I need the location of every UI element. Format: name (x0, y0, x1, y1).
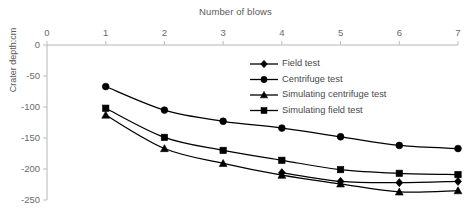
marker-triangle (161, 145, 169, 152)
y-tick-label: -100 (21, 101, 40, 112)
series-simulating-field-test (103, 105, 462, 178)
legend-label: Field test (282, 58, 320, 68)
marker-square (337, 166, 343, 172)
marker-square (396, 170, 402, 176)
marker-circle (220, 118, 227, 125)
marker-circle (396, 142, 403, 149)
marker-diamond (455, 177, 462, 185)
x-axis: 01234567 (44, 27, 460, 45)
chart-legend: Field testCentrifuge testSimulating cent… (250, 58, 387, 115)
y-axis: 0-50-100-150-200-250 (21, 39, 47, 205)
marker-square (261, 108, 267, 114)
marker-square (161, 134, 167, 140)
marker-circle (161, 107, 168, 114)
legend-item-simulating-centrifuge-test[interactable]: Simulating centrifuge test (250, 89, 387, 99)
x-tick-label: 6 (397, 27, 402, 38)
marker-diamond (261, 60, 267, 68)
marker-square (279, 157, 285, 163)
y-tick-label: -250 (21, 194, 40, 205)
marker-circle (278, 125, 285, 132)
legend-label: Simulating field test (282, 105, 363, 115)
marker-circle (102, 83, 109, 90)
marker-circle (455, 145, 462, 152)
marker-circle (261, 76, 267, 82)
y-tick-label: -200 (21, 163, 40, 174)
x-tick-label-group: 01234567 (44, 27, 460, 38)
x-tick-label: 1 (103, 27, 108, 38)
series-line (106, 108, 458, 174)
legend-label: Centrifuge test (282, 74, 343, 84)
x-tick-label: 7 (455, 27, 460, 38)
x-tick-group (47, 41, 458, 45)
series-group (102, 83, 462, 195)
marker-diamond (396, 179, 403, 187)
y-tick-label: -50 (26, 70, 40, 81)
marker-square (220, 147, 226, 153)
plot-area: 01234567 0-50-100-150-200-250 Field test… (0, 0, 471, 214)
x-tick-label: 0 (44, 27, 49, 38)
crater-depth-chart: Number of blows Crater depth:cm 01234567… (0, 0, 471, 214)
legend-item-centrifuge-test[interactable]: Centrifuge test (250, 74, 343, 84)
x-tick-label: 3 (220, 27, 225, 38)
y-tick-label: 0 (35, 39, 40, 50)
x-tick-label: 2 (162, 27, 167, 38)
x-tick-label: 4 (279, 27, 284, 38)
marker-circle (337, 133, 344, 140)
x-tick-label: 5 (338, 27, 343, 38)
y-tick-group (43, 45, 47, 200)
legend-item-field-test[interactable]: Field test (250, 58, 320, 68)
marker-triangle (102, 111, 110, 118)
marker-square (455, 171, 461, 177)
y-tick-label: -150 (21, 132, 40, 143)
y-tick-label-group: 0-50-100-150-200-250 (21, 39, 40, 205)
marker-square (103, 105, 109, 111)
legend-item-simulating-field-test[interactable]: Simulating field test (250, 105, 363, 115)
legend-label: Simulating centrifuge test (282, 89, 387, 99)
